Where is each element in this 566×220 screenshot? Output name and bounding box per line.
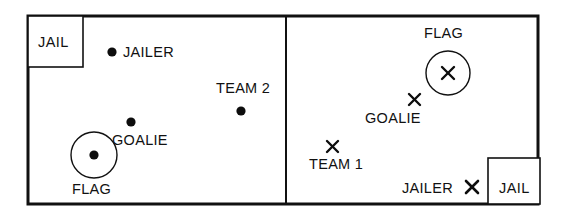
flag-marker-right-cross-icon <box>442 67 454 79</box>
player-marker-goalie-right-cross-icon <box>409 94 420 105</box>
player-label-goalie-left: GOALIE <box>112 133 168 148</box>
player-label-team2: TEAM 2 <box>216 81 270 96</box>
jail-label-right: JAIL <box>499 181 530 196</box>
flag-label-right: FLAG <box>424 26 463 41</box>
player-marker-jailer-left-dot-icon <box>107 47 116 56</box>
jail-label-left: JAIL <box>38 35 69 50</box>
player-label-jailer-right: JAILER <box>402 181 453 196</box>
flag-marker-left-dot-icon <box>89 150 98 159</box>
field-diagram: JAIL JAIL JAILER GOALIE TEAM 2 GOALIE TE… <box>0 0 566 220</box>
player-label-team1: TEAM 1 <box>309 157 363 172</box>
player-marker-goalie-left-dot-icon <box>126 117 135 126</box>
player-marker-jailer-right-cross-icon <box>466 181 478 193</box>
player-marker-team2-dot-icon <box>236 106 245 115</box>
player-label-goalie-right: GOALIE <box>365 111 421 126</box>
player-marker-team1-cross-icon <box>327 141 338 152</box>
flag-label-left: FLAG <box>72 182 111 197</box>
player-label-jailer-left: JAILER <box>123 45 174 60</box>
